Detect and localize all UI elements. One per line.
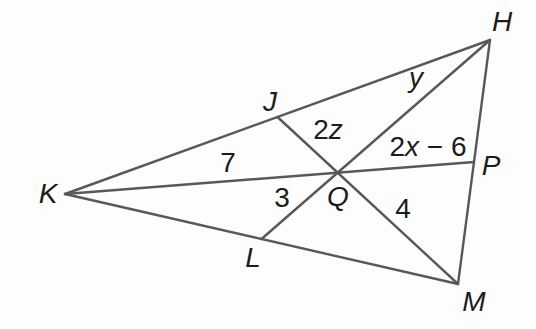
segment-label-QL: 3 — [274, 182, 290, 213]
vertex-label-K: K — [39, 178, 59, 209]
midpoint-label-P: P — [482, 150, 501, 181]
vertex-label-M: M — [462, 286, 486, 317]
vertex-label-H: H — [492, 6, 513, 37]
segment-label-QM: 4 — [395, 193, 411, 224]
midpoint-label-L: L — [245, 242, 261, 273]
segment-label-QP: 2x − 6 — [389, 131, 466, 162]
segment-label-JQ: 2z — [313, 114, 343, 145]
segment-label-KQ: 7 — [220, 147, 236, 178]
centroid-label-Q: Q — [327, 181, 349, 212]
triangle-median-diagram: K H M J L P Q 7 2x − 6 y 2z 3 4 — [0, 0, 536, 329]
midpoint-label-J: J — [262, 86, 278, 117]
segment-label-HQ: y — [407, 62, 425, 93]
geometry-figure: K H M J L P Q 7 2x − 6 y 2z 3 4 — [0, 0, 536, 329]
median-KP — [65, 162, 474, 194]
